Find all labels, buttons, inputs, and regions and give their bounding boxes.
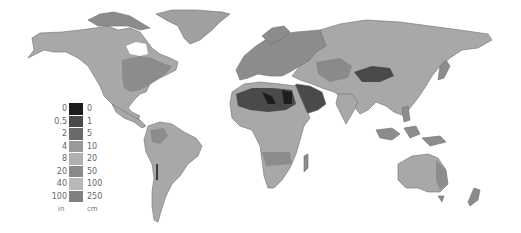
legend-row: 0.51	[34, 116, 104, 128]
legend-inch-label: 0.5	[37, 116, 67, 128]
new-zealand	[468, 188, 480, 206]
legend-cm-label: 1	[87, 116, 92, 128]
legend-cm-label: 250	[87, 191, 102, 203]
legend-inch-label: 2	[37, 128, 67, 140]
legend-row: 820	[34, 153, 104, 165]
legend-cm-label: 5	[87, 128, 92, 140]
legend-inch-label: 4	[37, 141, 67, 153]
legend-swatch	[69, 153, 83, 165]
southern-africa-wet	[262, 152, 292, 166]
legend-swatch	[69, 128, 83, 140]
legend-row: 25	[34, 128, 104, 140]
legend-cm-label: 100	[87, 178, 102, 190]
atacama-desert	[156, 164, 158, 180]
greenland	[156, 10, 230, 44]
legend-cm-label: 50	[87, 166, 97, 178]
legend-inch-label: 8	[37, 153, 67, 165]
tasmania	[438, 196, 444, 202]
legend-row: 2050	[34, 166, 104, 178]
legend-row: 100250	[34, 191, 104, 203]
legend-row: 40100	[34, 178, 104, 190]
legend-swatch	[69, 191, 83, 203]
legend-swatch	[69, 103, 83, 115]
legend-cm-label: 0	[87, 103, 92, 115]
central-america	[112, 104, 146, 128]
legend-swatch	[69, 166, 83, 178]
legend-row: 00	[34, 103, 104, 115]
legend-cm-label: 10	[87, 141, 97, 153]
legend-row: 410	[34, 141, 104, 153]
legend-unit-in: in	[58, 205, 64, 213]
arctic-islands	[88, 12, 150, 30]
madagascar	[304, 154, 308, 172]
legend-inch-label: 20	[37, 166, 67, 178]
legend-inch-label: 0	[37, 103, 67, 115]
legend-inch-label: 40	[37, 178, 67, 190]
legend-unit-cm: cm	[87, 205, 98, 213]
legend-swatch	[69, 116, 83, 128]
legend-swatch	[69, 178, 83, 190]
legend-cm-label: 20	[87, 153, 97, 165]
legend-swatch	[69, 141, 83, 153]
indonesia	[376, 126, 446, 146]
legend-inch-label: 100	[37, 191, 67, 203]
india	[336, 94, 358, 124]
precipitation-legend: 000.5125410820205040100100250incm	[34, 103, 104, 221]
